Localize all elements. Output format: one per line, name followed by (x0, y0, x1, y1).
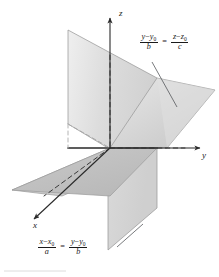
fraction-left-yz: y−y0 b (140, 33, 158, 51)
z-axis-label: z (119, 9, 123, 18)
slanted-plane-right-highlight (157, 78, 215, 148)
equals-sign-yz: = (160, 38, 170, 46)
denominator-left-yz: b (140, 43, 158, 52)
subscript-right-xy: 0 (83, 241, 86, 247)
fraction-right-yz: z−z0 c (171, 33, 188, 51)
equation-plane-yz: y−y0 b = z−z0 c (140, 33, 188, 51)
x-axis-label: x (33, 221, 37, 230)
fraction-left-xy: x−x0 a (38, 238, 56, 256)
denominator-right-xy: b (69, 248, 87, 257)
subscript-right-yz: 0 (184, 36, 187, 42)
figure-container: z y x y−y0 b = z−z0 c x−x0 a = y−y0 b (0, 0, 219, 277)
fraction-right-xy: y−y0 b (69, 238, 87, 256)
subscript-left-xy: 0 (51, 241, 54, 247)
subscript-left-yz: 0 (153, 36, 156, 42)
y-axis-label: y (202, 151, 206, 160)
denominator-left-xy: a (38, 248, 56, 257)
equals-sign-xy: = (58, 243, 68, 251)
denominator-right-yz: c (171, 43, 188, 52)
equation-plane-xy: x−x0 a = y−y0 b (38, 238, 87, 256)
